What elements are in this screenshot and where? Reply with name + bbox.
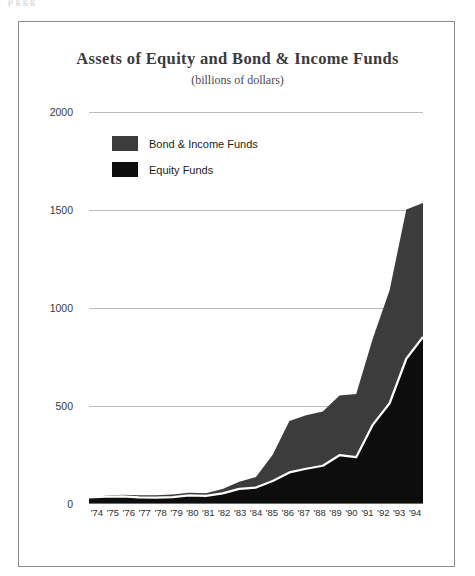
x-tick-label: '87 xyxy=(296,507,312,518)
x-tick-label: '85 xyxy=(264,507,280,518)
x-tick-label: '83 xyxy=(232,507,248,518)
clipped-page-text: p g g g xyxy=(8,0,468,7)
chart-legend: Bond & Income Funds Equity Funds xyxy=(112,136,258,188)
chart-title: Assets of Equity and Bond & Income Funds xyxy=(19,49,456,69)
x-tick-label: '89 xyxy=(328,507,344,518)
x-tick-label: '90 xyxy=(344,507,360,518)
legend-item-equity-funds: Equity Funds xyxy=(112,162,258,177)
legend-swatch-bond-income-funds xyxy=(112,136,138,151)
x-tick-label: '93 xyxy=(391,507,407,518)
y-tick-label-1500: 1500 xyxy=(27,204,73,216)
chart-figure-frame: Assets of Equity and Bond & Income Funds… xyxy=(18,21,455,567)
legend-item-bond-income-funds: Bond & Income Funds xyxy=(112,136,258,151)
x-tick-label: '78 xyxy=(153,507,169,518)
x-tick-label: '94 xyxy=(407,507,423,518)
x-tick-label: '79 xyxy=(169,507,185,518)
x-tick-label: '74 xyxy=(89,507,105,518)
x-tick-label: '77 xyxy=(137,507,153,518)
x-tick-label: '81 xyxy=(200,507,216,518)
x-axis-tick-labels: '74'75'76'77'78'79'80'81'82'83'84'85'86'… xyxy=(89,507,423,518)
x-tick-label: '82 xyxy=(216,507,232,518)
y-tick-label-2000: 2000 xyxy=(27,106,73,118)
legend-label-bond-income-funds: Bond & Income Funds xyxy=(149,138,258,150)
x-tick-label: '84 xyxy=(248,507,264,518)
x-axis-baseline xyxy=(89,503,423,504)
y-tick-label-500: 500 xyxy=(27,400,73,412)
x-tick-label: '80 xyxy=(184,507,200,518)
x-tick-label: '92 xyxy=(375,507,391,518)
y-tick-label-0: 0 xyxy=(27,498,73,510)
x-tick-label: '86 xyxy=(280,507,296,518)
legend-swatch-equity-funds xyxy=(112,162,138,177)
y-tick-label-1000: 1000 xyxy=(27,302,73,314)
x-tick-label: '76 xyxy=(121,507,137,518)
x-tick-label: '88 xyxy=(312,507,328,518)
x-tick-label: '91 xyxy=(359,507,375,518)
x-tick-label: '75 xyxy=(105,507,121,518)
chart-subtitle: (billions of dollars) xyxy=(19,73,456,88)
legend-label-equity-funds: Equity Funds xyxy=(149,164,213,176)
